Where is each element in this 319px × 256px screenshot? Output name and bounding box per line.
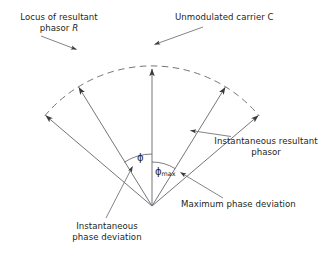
- instantaneous-phase-deviation-leader-line: [106, 167, 133, 219]
- locus-leader-line: [41, 36, 77, 50]
- instantaneous-phase-deviation-label: Instantaneous phase deviation: [57, 221, 157, 243]
- phi-max-symbol: ϕmax: [155, 166, 176, 178]
- instantaneous-phase-deviation-line1: Instantaneous: [57, 221, 157, 232]
- locus-label-symbol-r: R: [72, 23, 78, 33]
- locus-label-line1: Locus of resultant: [4, 12, 114, 23]
- maximum-phase-deviation-leader-line: [181, 173, 224, 199]
- extreme-right-phasor: [152, 116, 258, 206]
- locus-label: Locus of resultant phasor R: [4, 12, 114, 34]
- instantaneous-resultant-phasor-line1: Instantaneous resultant: [214, 136, 318, 147]
- instantaneous-resultant-phasor-label: Instantaneous resultant phasor: [214, 136, 318, 158]
- locus-label-line2: phasor R: [4, 23, 114, 34]
- phi-max-subscript: max: [162, 170, 176, 178]
- left-phasor: [79, 87, 152, 206]
- phasor-diagram: Locus of resultant phasor R Unmodulated …: [0, 0, 319, 256]
- diagram-canvas: [0, 0, 319, 256]
- instantaneous-resultant-phasor-line2: phasor: [214, 147, 318, 158]
- maximum-phase-deviation-label: Maximum phase deviation: [181, 199, 296, 210]
- locus-label-line2-text: phasor: [40, 23, 73, 33]
- instantaneous-phase-deviation-line2: phase deviation: [57, 232, 157, 243]
- unmodulated-carrier-label: Unmodulated carrier C: [175, 12, 274, 23]
- carrier-leader-line: [155, 27, 204, 45]
- phi-max-base: ϕ: [155, 166, 162, 177]
- phi-symbol: ϕ: [137, 152, 144, 163]
